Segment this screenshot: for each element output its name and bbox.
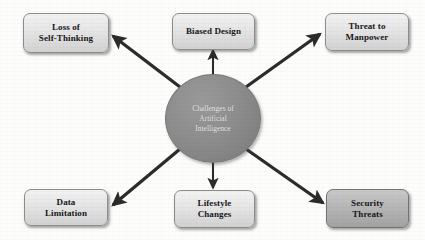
arrow-to-security-threats: [246, 149, 323, 203]
arrow-to-data-limitation: [113, 149, 180, 205]
node-data-limitation-label: Data Limitation: [42, 197, 90, 219]
center-node-label: Challenges of Artificial Intelligence: [192, 104, 233, 134]
node-loss-of-self-thinking-label: Loss of Self-Thinking: [36, 22, 96, 44]
node-security-threats-label: Security Threats: [348, 198, 387, 220]
node-threat-to-manpower[interactable]: Threat to Manpower: [325, 13, 409, 51]
node-lifestyle-changes[interactable]: Lifestyle Changes: [174, 190, 255, 228]
node-biased-design-label: Biased Design: [183, 26, 244, 37]
node-security-threats[interactable]: Security Threats: [326, 189, 409, 228]
arrow-to-loss-of-self-thinking: [113, 36, 180, 87]
arrow-to-threat-to-manpower: [246, 34, 320, 87]
node-data-limitation[interactable]: Data Limitation: [24, 189, 108, 226]
node-lifestyle-changes-label: Lifestyle Changes: [195, 198, 235, 220]
node-threat-to-manpower-label: Threat to Manpower: [343, 21, 392, 43]
center-node-challenges-of-artificial-intelligence[interactable]: Challenges of Artificial Intelligence: [165, 74, 261, 163]
node-biased-design[interactable]: Biased Design: [172, 13, 255, 50]
node-loss-of-self-thinking[interactable]: Loss of Self-Thinking: [23, 13, 109, 53]
concept-diagram: Challenges of Artificial Intelligence Lo…: [0, 0, 425, 240]
